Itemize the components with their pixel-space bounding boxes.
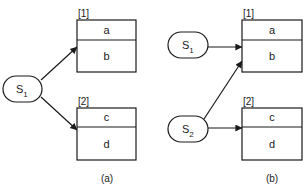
- field-d: d: [269, 138, 275, 150]
- caption-a: (a): [101, 173, 113, 184]
- field-c: c: [104, 111, 110, 123]
- block-index-label: [2]: [243, 96, 254, 107]
- block-2: [2] c d: [242, 96, 302, 160]
- arrow-s1-to-block1: [41, 47, 77, 80]
- field-a: a: [269, 24, 276, 36]
- diagram-canvas: S1 [1] a b [2] c d (a) S1: [0, 0, 305, 186]
- field-c: c: [269, 111, 275, 123]
- caption-b: (b): [266, 173, 278, 184]
- arrow-s1-to-block2: [41, 97, 77, 130]
- field-b: b: [103, 50, 109, 62]
- source-node-s1: S1: [3, 76, 42, 102]
- field-d: d: [103, 138, 109, 150]
- block-1: [1] a b: [242, 8, 302, 72]
- arrow-s2-to-block1: [204, 61, 242, 119]
- block-index-label: [1]: [78, 8, 89, 19]
- field-b: b: [269, 50, 275, 62]
- source-node-s1: S1: [168, 32, 208, 58]
- block-index-label: [1]: [243, 8, 254, 19]
- panel-b: S1 S2 [1] a b [2] c d (b): [168, 8, 302, 184]
- field-a: a: [103, 24, 110, 36]
- block-1: [1] a b: [77, 8, 136, 72]
- block-2: [2] c d: [77, 96, 136, 160]
- source-node-s2: S2: [168, 116, 208, 142]
- panel-a: S1 [1] a b [2] c d (a): [3, 8, 136, 184]
- block-index-label: [2]: [78, 96, 89, 107]
